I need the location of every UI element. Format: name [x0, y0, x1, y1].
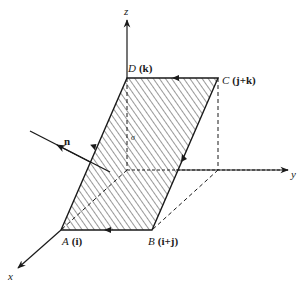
z-axis-label: z [123, 5, 129, 17]
vertex-A-label: A(i) [61, 235, 82, 248]
vertex-D-label: D(k) [127, 62, 153, 75]
parallelogram-diagram: z y x D(k) C(j+k) A(i) B(i+j) n σ [0, 0, 304, 286]
vertex-C-label: C(j+k) [222, 74, 256, 87]
vertex-B-label: B(i+j) [148, 235, 178, 248]
x-axis-label: x [7, 270, 13, 282]
y-axis-label: y [290, 168, 296, 180]
normal-label: n [64, 135, 70, 147]
